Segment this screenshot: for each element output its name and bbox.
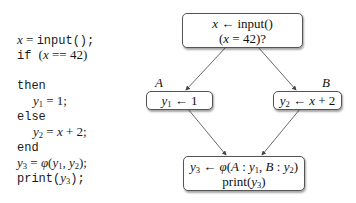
block-a-text: y1 ← 1 xyxy=(147,93,212,108)
cfg-block-a: y1 ← 1 xyxy=(146,91,213,110)
block-b-label: B xyxy=(322,75,330,91)
merge-line-2: print(y3) xyxy=(184,174,304,189)
entry-line-1: x ← input() xyxy=(183,16,302,31)
edge-entry-to-b xyxy=(258,47,296,90)
edge-entry-to-a xyxy=(186,47,226,90)
merge-line-1: y3 ← φ(A : y1, B : y2) xyxy=(184,159,304,174)
cfg-block-b: y2 ← x + 2 xyxy=(273,91,342,110)
edge-b-to-merge xyxy=(262,109,300,155)
block-b-text: y2 ← x + 2 xyxy=(274,93,341,108)
block-a-label: A xyxy=(155,75,163,91)
cfg-merge-block: y3 ← φ(A : y1, B : y2) print(y3) xyxy=(183,156,305,191)
edge-a-to-merge xyxy=(188,109,226,155)
cfg-entry-block: x ← input() (x = 42)? xyxy=(182,13,303,48)
entry-line-2: (x = 42)? xyxy=(183,31,302,46)
